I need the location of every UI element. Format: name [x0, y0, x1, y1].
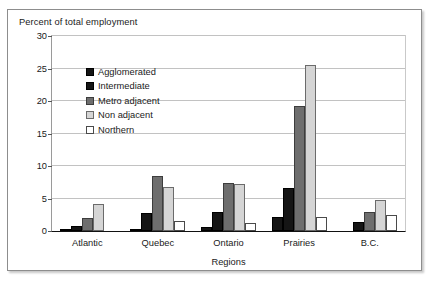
legend-item: Metro adjacent — [86, 95, 160, 107]
y-tick-label: 20 — [37, 96, 47, 106]
legend-swatch-icon — [86, 126, 94, 134]
legend-item: Northern — [86, 124, 160, 136]
bar — [201, 227, 212, 231]
bar — [234, 184, 245, 231]
bar-group: B.C. — [334, 36, 405, 231]
bar — [223, 183, 234, 231]
legend-swatch-icon — [86, 97, 94, 105]
bar — [375, 200, 386, 231]
bar — [82, 218, 93, 231]
chart-figure: Percent of total employment 051015202530… — [7, 9, 422, 271]
y-tick-mark — [48, 231, 52, 232]
legend-item-label: Northern — [98, 125, 134, 135]
legend-item-label: Intermediate — [98, 81, 150, 91]
bar — [364, 212, 375, 231]
bar — [130, 229, 141, 231]
legend-item: Agglomerated — [86, 66, 160, 78]
bar-group-bars — [264, 36, 335, 231]
bar — [283, 188, 294, 231]
y-tick-label: 5 — [42, 194, 47, 204]
bar — [60, 229, 71, 231]
chart-legend: AgglomeratedIntermediateMetro adjacentNo… — [86, 66, 160, 136]
bar — [93, 204, 104, 231]
y-tick-label: 0 — [42, 226, 47, 236]
bar — [353, 222, 364, 231]
legend-item-label: Agglomerated — [98, 67, 156, 77]
bar — [212, 212, 223, 231]
bar — [163, 187, 174, 231]
bar-group: Prairies — [264, 36, 335, 231]
bar-group: Ontario — [193, 36, 264, 231]
bar — [174, 221, 185, 231]
bar — [316, 217, 327, 231]
x-tick-label: Quebec — [142, 238, 175, 248]
bar-group-bars — [193, 36, 264, 231]
bar — [294, 106, 305, 231]
bar — [141, 213, 152, 231]
legend-item-label: Non adjacent — [98, 110, 153, 120]
bar — [245, 223, 256, 231]
bar — [386, 215, 397, 231]
legend-swatch-icon — [86, 82, 94, 90]
y-tick-label: 30 — [37, 31, 47, 41]
bar — [152, 176, 163, 231]
x-tick-label: Ontario — [213, 238, 244, 248]
y-tick-label: 25 — [37, 64, 47, 74]
y-axis-title: Percent of total employment — [19, 17, 137, 27]
x-tick-label: B.C. — [361, 238, 379, 248]
y-tick-label: 15 — [37, 129, 47, 139]
legend-item-label: Metro adjacent — [98, 96, 160, 106]
legend-item: Non adjacent — [86, 109, 160, 121]
x-axis-title: Regions — [51, 257, 406, 267]
y-tick-label: 10 — [37, 161, 47, 171]
x-tick-label: Atlantic — [72, 238, 103, 248]
legend-swatch-icon — [86, 111, 94, 119]
bar — [305, 65, 316, 231]
bar — [71, 226, 82, 231]
bar-group-bars — [334, 36, 405, 231]
bar — [272, 217, 283, 231]
legend-item: Intermediate — [86, 80, 160, 92]
x-tick-label: Prairies — [283, 238, 315, 248]
legend-swatch-icon — [86, 68, 94, 76]
